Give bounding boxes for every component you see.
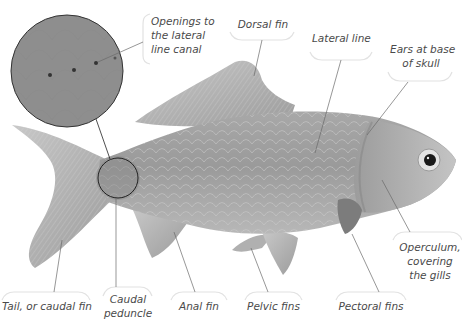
label-lateral-line: Lateral line xyxy=(312,31,370,45)
label-line: Pelvic fins xyxy=(245,299,302,313)
label-anal-fin: Anal fin xyxy=(171,299,227,313)
label-caudal-peduncle: Caudal peduncle xyxy=(103,292,153,320)
label-line: Openings to xyxy=(151,14,215,28)
label-line: Caudal xyxy=(103,292,153,306)
pelvic-fins xyxy=(232,231,298,275)
label-operculum: Operculum, covering the gills xyxy=(398,240,462,282)
label-pectoral-fins: Pectoral fins xyxy=(336,299,406,313)
label-line: Dorsal fin xyxy=(236,17,290,31)
label-line: the gills xyxy=(398,268,462,282)
inset-connector-line xyxy=(96,119,110,159)
label-line: line canal xyxy=(151,42,215,56)
label-line: peduncle xyxy=(103,306,153,320)
label-line: Operculum, xyxy=(398,240,462,254)
label-line: of skull xyxy=(390,56,452,70)
label-line: the lateral xyxy=(151,28,215,42)
label-ears: Ears at base of skull xyxy=(390,42,452,70)
label-line: Lateral line xyxy=(312,31,370,45)
label-line: Anal fin xyxy=(171,299,227,313)
label-tail-caudal-fin: Tail, or caudal fin xyxy=(2,299,90,313)
eye xyxy=(418,149,440,171)
label-line: Ears at base xyxy=(390,42,452,56)
label-dorsal-fin: Dorsal fin xyxy=(236,17,290,31)
label-line: Tail, or caudal fin xyxy=(2,299,90,313)
label-line: covering xyxy=(398,254,462,268)
label-line: Pectoral fins xyxy=(336,299,406,313)
label-pelvic-fins: Pelvic fins xyxy=(245,299,302,313)
label-openings-lateral-line: Openings to the lateral line canal xyxy=(151,14,215,56)
fish-anatomy-diagram: Openings to the lateral line canal Dorsa… xyxy=(0,0,462,326)
magnified-scales-inset xyxy=(10,14,126,130)
caudal-fin xyxy=(12,125,112,268)
